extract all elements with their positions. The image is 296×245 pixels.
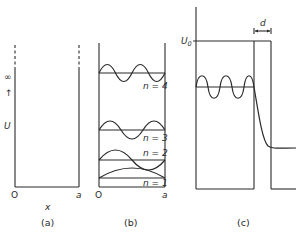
origin-label: O — [95, 190, 102, 200]
level-label-n2: n = 2 — [143, 148, 168, 158]
barrier-height-label: U0 — [181, 36, 192, 48]
quantum-well-figure: ∞ ↑ U O a x (a) n = 1 n = 2 n = 3 n = 4 … — [0, 0, 296, 245]
panel-caption: (c) — [237, 217, 250, 228]
up-arrow-icon: ↑ — [5, 88, 13, 98]
panel-caption: (a) — [41, 217, 54, 228]
y-axis-label: U — [4, 121, 11, 131]
arrowhead-left-icon — [255, 30, 258, 33]
level-label-n3: n = 3 — [143, 133, 168, 143]
wavefunction-n1 — [99, 168, 165, 178]
width-label: a — [76, 190, 82, 200]
x-axis-label: x — [44, 202, 51, 212]
origin-label: O — [11, 190, 18, 200]
infinity-label: ∞ — [4, 72, 12, 82]
width-label: a — [162, 190, 168, 200]
barrier-width-label: d — [260, 18, 266, 28]
panel-b: n = 1 n = 2 n = 3 n = 4 O a (b) — [95, 43, 168, 228]
panel-a: ∞ ↑ U O a x (a) — [4, 45, 82, 228]
panel-caption: (b) — [124, 217, 137, 228]
level-label-n4: n = 4 — [143, 81, 168, 91]
panel-c: d U0 (c) — [181, 7, 296, 228]
arrowhead-right-icon — [267, 30, 270, 33]
level-label-n1: n = 1 — [143, 178, 168, 188]
